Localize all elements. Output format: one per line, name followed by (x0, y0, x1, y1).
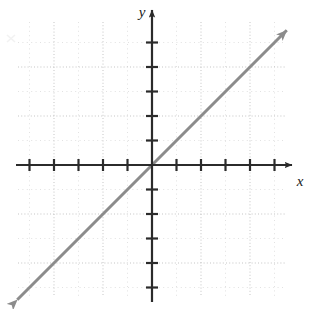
graph-canvas: x y (0, 0, 312, 309)
x-axis-label: x (296, 173, 304, 189)
coordinate-plane-figure: x y (0, 0, 312, 309)
y-axis-label: y (137, 4, 146, 20)
